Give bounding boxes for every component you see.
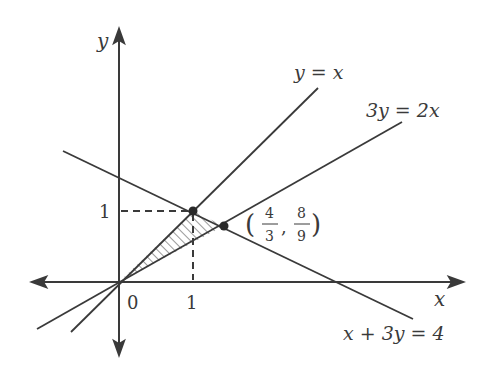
- svg-text:): ): [311, 209, 321, 239]
- x-tick-label: 1: [186, 292, 197, 313]
- svg-text:4: 4: [265, 205, 274, 221]
- origin-label: 0: [127, 292, 138, 313]
- y-tick-label: 1: [99, 201, 110, 222]
- point-4-3-8-9: [220, 222, 229, 231]
- line-x-plus-3y-eq-4: [63, 151, 413, 319]
- diagram-canvas: y x 0 1 1 y = x 3y = 2x x + 3y = 4 ( 4 3…: [0, 0, 489, 370]
- y-axis-up-arrow-icon: [114, 29, 124, 43]
- svg-text:(: (: [245, 209, 255, 239]
- label-y-eq-x: y = x: [293, 61, 344, 83]
- label-3y-eq-2x: 3y = 2x: [366, 99, 440, 121]
- label-point-4-3-8-9: ( 4 3 , 8 9 ): [245, 205, 321, 244]
- y-axis: [114, 29, 124, 355]
- y-axis-label: y: [96, 29, 109, 53]
- label-x-plus-3y-eq-4: x + 3y = 4: [343, 322, 445, 344]
- x-axis-left-arrow-icon: [32, 277, 46, 287]
- x-axis: [32, 277, 463, 287]
- svg-text:3: 3: [265, 228, 274, 244]
- point-1-1: [189, 207, 198, 216]
- svg-text:9: 9: [297, 228, 306, 244]
- x-axis-label: x: [434, 287, 445, 311]
- svg-text:,: ,: [281, 216, 287, 237]
- y-axis-down-arrow-icon: [114, 341, 124, 355]
- svg-text:8: 8: [297, 205, 306, 221]
- x-axis-right-arrow-icon: [449, 277, 463, 287]
